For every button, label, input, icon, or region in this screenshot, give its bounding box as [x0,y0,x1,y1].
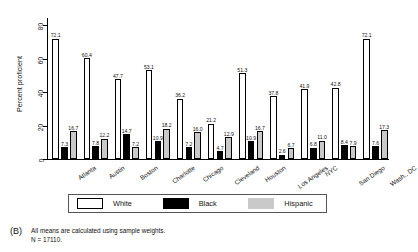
bar-hispanic: 16.7 [70,131,77,159]
bar-white: 21.2 [208,124,215,159]
bar-white: 41.9 [301,89,308,159]
bar-value-label: 7.8 [92,141,99,146]
y-tick-label: 60 [37,57,44,64]
bar-white: 53.1 [146,70,153,159]
bar-white: 37.8 [270,96,277,159]
bar-value-label: 7.6 [372,141,379,146]
bar-hispanic: 6.7 [288,148,295,159]
legend-label-black: Black [199,199,217,208]
bar-group: 37.82.66.7 [270,17,294,159]
bar-value-label: 51.3 [237,68,247,73]
bar-hispanic: 11.0 [319,141,326,159]
bar-value-label: 2.6 [279,149,286,154]
y-axis-label: Percent proficient [14,24,24,144]
bar-white: 51.3 [239,73,246,159]
bar-group: 51.310.916.7 [239,17,263,159]
legend-item: Hispanic [240,198,326,209]
bar-value-label: 72.1 [362,33,372,38]
bar-value-label: 47.7 [113,74,123,79]
bar-black: 8.4 [341,145,348,159]
bar-hispanic: 12.9 [225,137,232,159]
caption-body: All means are calculated using sample we… [31,226,165,245]
bar-value-label: 10.9 [246,136,256,141]
bar-black: 4.7 [217,151,224,159]
x-tick-label: Atlanta [76,164,96,181]
bar-black: 7.3 [61,147,68,159]
bar-value-label: 8.4 [341,140,348,145]
bar-hispanic: 16.7 [257,131,264,159]
caption-tag: (B) [10,226,22,237]
x-tick-label: Los Angeles [296,164,329,190]
bar-white: 36.2 [177,99,184,159]
bar-hispanic: 12.2 [101,139,108,159]
bar-value-label: 16.7 [255,126,265,131]
bar-group: 21.24.712.9 [208,17,232,159]
bar-black: 10.9 [248,141,255,159]
bar-value-label: 10.9 [153,136,163,141]
bar-value-label: 7.3 [61,142,68,147]
bar-group: 41.96.811.0 [301,17,325,159]
legend-item: White [69,198,155,209]
bar-black: 2.6 [279,155,286,159]
bar-value-label: 17.3 [379,125,389,130]
bar-value-label: 16.7 [68,126,78,131]
x-tick-label: Charlotte [171,164,196,185]
bar-black: 7.2 [186,147,193,159]
bar-value-label: 37.8 [268,91,278,96]
bar-black: 10.9 [155,141,162,159]
bar-white: 72.1 [363,39,370,159]
bar-white: 47.7 [115,79,122,159]
bar-hispanic: 16.0 [194,132,201,159]
bar-group: 47.714.77.2 [115,17,139,159]
bar-white: 72.1 [52,39,59,159]
bar-value-label: 7.9 [350,141,357,146]
bar-value-label: 11.0 [317,135,327,140]
x-tick-label: Chicago [201,164,224,183]
legend-swatch-white [77,198,103,209]
x-tick-label: Austin [107,164,126,180]
bar-value-label: 6.7 [287,143,294,148]
x-tick-label: Houston [263,164,287,183]
plot-area: 020406080 72.17.316.760.47.812.247.714.7… [47,18,389,160]
bar-value-label: 72.1 [51,33,61,38]
legend-swatch-hispanic [248,198,274,209]
bar-value-label: 21.2 [206,118,216,123]
legend-label-white: White [113,199,132,208]
figure-caption: (B) All means are calculated using sampl… [10,226,165,245]
y-axis-line [47,18,48,160]
chart-legend: White Black Hispanic [68,194,327,213]
bar-value-label: 36.2 [175,93,185,98]
bar-value-label: 7.2 [132,142,139,147]
bar-value-label: 7.2 [185,142,192,147]
bar-group: 60.47.812.2 [84,17,108,159]
bar-value-label: 12.2 [99,133,109,138]
bar-value-label: 14.7 [122,129,132,134]
bar-value-label: 53.1 [144,65,154,70]
caption-line-1: All means are calculated using sample we… [31,226,165,235]
bar-hispanic: 7.2 [132,147,139,159]
bar-hispanic: 17.3 [381,130,388,159]
bar-group: 42.88.47.9 [332,17,356,159]
bar-group: 72.17.316.7 [52,17,76,159]
y-tick-label: 20 [37,124,44,131]
bar-hispanic: 7.9 [350,146,357,159]
legend-item: Black [155,198,241,209]
y-tick-label: 40 [37,90,44,97]
legend-label-hispanic: Hispanic [284,199,312,208]
x-tick-label: Cleveland [233,164,260,186]
bar-value-label: 60.4 [82,53,92,58]
bar-group: 53.110.918.2 [146,17,170,159]
bar-black: 7.8 [92,146,99,159]
bar-group: 72.17.617.3 [363,17,387,159]
bar-white: 60.4 [84,58,91,159]
bar-black: 14.7 [123,134,130,159]
bar-value-label: 41.9 [300,84,310,89]
bar-value-label: 4.7 [216,146,223,151]
legend-swatch-black [163,198,189,209]
x-tick-label: Boston [138,164,158,181]
bar-value-label: 12.9 [224,132,234,137]
y-tick-label: 80 [37,23,44,30]
x-axis-line [47,159,389,160]
bar-black: 6.8 [310,148,317,159]
